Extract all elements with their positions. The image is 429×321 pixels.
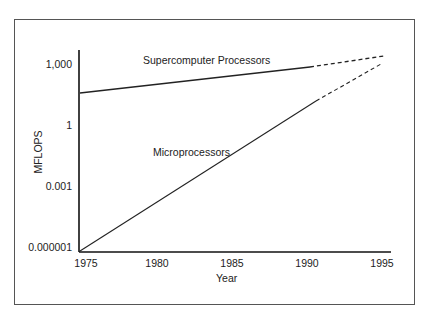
- series-label-microprocessors: Microprocessors: [153, 146, 230, 158]
- x-tick-label: 1975: [66, 257, 106, 269]
- chart-plot: [0, 0, 429, 321]
- x-axis-title: Year: [216, 272, 237, 284]
- y-tick-label: 1,000: [12, 58, 72, 70]
- x-tick-label: 1980: [137, 257, 177, 269]
- x-tick-label: 1995: [362, 257, 402, 269]
- supercomputer-line-solid: [80, 67, 310, 93]
- y-tick-label: 1: [12, 119, 72, 131]
- y-tick-label: 0.000001: [12, 241, 72, 253]
- y-tick-label: 0.001: [12, 180, 72, 192]
- series-label-supercomputer: Supercomputer Processors: [143, 54, 270, 66]
- microprocessor-line-solid: [80, 101, 316, 251]
- microprocessor-line-projected: [316, 64, 381, 101]
- x-tick-label: 1985: [212, 257, 252, 269]
- y-axis-title: MFLOPS: [32, 130, 44, 173]
- x-tick-label: 1990: [287, 257, 327, 269]
- supercomputer-line-projected: [310, 56, 384, 67]
